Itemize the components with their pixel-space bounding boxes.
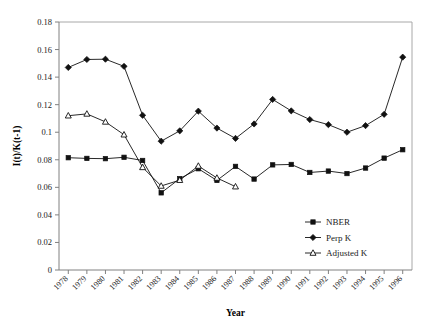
- y-tick-label: 0.14: [37, 72, 53, 82]
- data-point-marker: [307, 116, 313, 122]
- data-point-marker: [326, 169, 330, 173]
- series-line: [68, 57, 402, 141]
- data-point-marker: [363, 166, 367, 170]
- x-tick-label: 1993: [330, 274, 348, 292]
- x-axis-title: Year: [226, 308, 246, 318]
- x-tick-label: 1979: [70, 274, 88, 292]
- data-point-marker: [252, 177, 256, 181]
- chart-container: 00.020.040.060.080.10.120.140.160.18 197…: [0, 0, 430, 328]
- y-tick-label: 0: [48, 265, 52, 275]
- y-axis-ticks: 00.020.040.060.080.10.120.140.160.18: [37, 17, 59, 275]
- y-tick-label: 0.12: [37, 100, 52, 110]
- data-point-marker: [288, 108, 294, 114]
- y-tick-label: 0.1: [41, 127, 52, 137]
- data-point-marker: [140, 158, 144, 162]
- data-point-marker: [102, 56, 108, 62]
- data-point-marker: [84, 111, 90, 117]
- y-tick-label: 0.06: [37, 182, 52, 192]
- data-point-marker: [214, 175, 220, 181]
- y-tick-label: 0.08: [37, 155, 52, 165]
- x-tick-label: 1978: [52, 274, 70, 292]
- x-tick-label: 1989: [256, 274, 274, 292]
- y-axis-title: I(t)/K(t-1): [12, 126, 23, 167]
- x-tick-label: 1990: [275, 274, 293, 292]
- x-tick-label: 1992: [312, 274, 330, 292]
- legend-item-perp-k[interactable]: Perp K: [305, 233, 352, 243]
- plot-frame: [59, 22, 412, 270]
- y-tick-label: 0.18: [37, 17, 52, 27]
- x-tick-label: 1981: [107, 274, 125, 292]
- series-layer: [65, 54, 406, 195]
- legend-label: NBER: [326, 217, 350, 227]
- data-point-marker: [344, 129, 350, 135]
- x-tick-label: 1983: [145, 274, 163, 292]
- x-tick-label: 1982: [126, 274, 144, 292]
- x-tick-label: 1988: [238, 274, 256, 292]
- data-point-marker: [325, 122, 331, 128]
- series-perp-k: [65, 54, 406, 144]
- x-tick-label: 1995: [368, 274, 386, 292]
- y-tick-label: 0.04: [37, 210, 53, 220]
- legend-label: Perp K: [326, 233, 352, 243]
- data-point-marker: [381, 111, 387, 117]
- data-point-marker: [66, 156, 70, 160]
- chart-legend: NBERPerp KAdjusted K: [305, 217, 368, 258]
- x-axis-ticks: 1978197919801981198219831984198519861987…: [52, 270, 404, 292]
- legend-item-adjusted-k[interactable]: Adjusted K: [305, 248, 368, 258]
- data-point-marker: [270, 163, 274, 167]
- data-point-marker: [84, 56, 90, 62]
- data-point-marker: [310, 234, 316, 240]
- series-line: [68, 114, 235, 187]
- data-point-marker: [233, 183, 239, 189]
- data-point-marker: [362, 123, 368, 129]
- data-point-marker: [345, 171, 349, 175]
- data-point-marker: [85, 156, 89, 160]
- x-tick-label: 1996: [386, 274, 404, 292]
- data-point-marker: [121, 63, 127, 69]
- data-point-marker: [122, 155, 126, 159]
- data-point-marker: [103, 156, 107, 160]
- data-point-marker: [195, 163, 201, 169]
- x-tick-label: 1980: [89, 274, 107, 292]
- y-tick-label: 0.02: [37, 237, 52, 247]
- data-point-marker: [140, 112, 146, 118]
- data-point-marker: [311, 220, 315, 224]
- x-tick-label: 1994: [349, 274, 367, 292]
- line-chart: 00.020.040.060.080.10.120.140.160.18 197…: [0, 0, 430, 328]
- x-tick-label: 1985: [182, 274, 200, 292]
- x-tick-label: 1986: [200, 274, 218, 292]
- data-point-marker: [158, 138, 164, 144]
- data-point-marker: [121, 132, 127, 138]
- x-tick-label: 1987: [219, 274, 237, 292]
- data-point-marker: [233, 164, 237, 168]
- legend-item-nber[interactable]: NBER: [305, 217, 350, 227]
- data-point-marker: [65, 64, 71, 70]
- data-point-marker: [289, 162, 293, 166]
- legend-label: Adjusted K: [326, 248, 368, 258]
- y-tick-label: 0.16: [37, 45, 52, 55]
- data-point-marker: [308, 170, 312, 174]
- data-point-marker: [401, 148, 405, 152]
- data-point-marker: [159, 191, 163, 195]
- x-tick-label: 1991: [293, 274, 311, 292]
- data-point-marker: [400, 54, 406, 60]
- x-tick-label: 1984: [163, 274, 181, 292]
- data-point-marker: [382, 156, 386, 160]
